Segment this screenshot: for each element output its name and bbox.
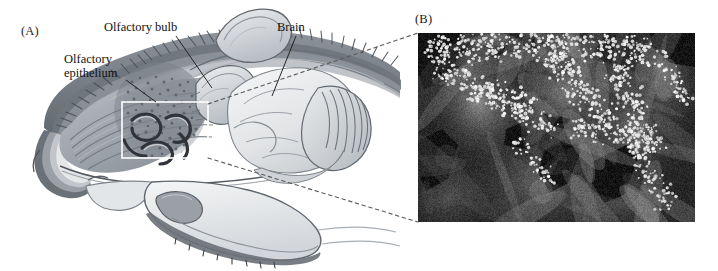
lower-jaw [86, 176, 321, 268]
micrograph-canvas [418, 33, 695, 222]
panel-b-micrograph [418, 33, 695, 222]
label-olfactory-bulb: Olfactory bulb [104, 20, 177, 34]
cerebellum [302, 86, 372, 170]
panel-b-letter: (B) [415, 12, 432, 27]
label-olfactory-epithelium: Olfactory epithelium [64, 52, 117, 80]
label-brain: Brain [277, 20, 305, 34]
neck-contours [318, 227, 400, 246]
olfactory-epithelium-region [114, 62, 206, 159]
figure-root: (A) [0, 0, 718, 271]
